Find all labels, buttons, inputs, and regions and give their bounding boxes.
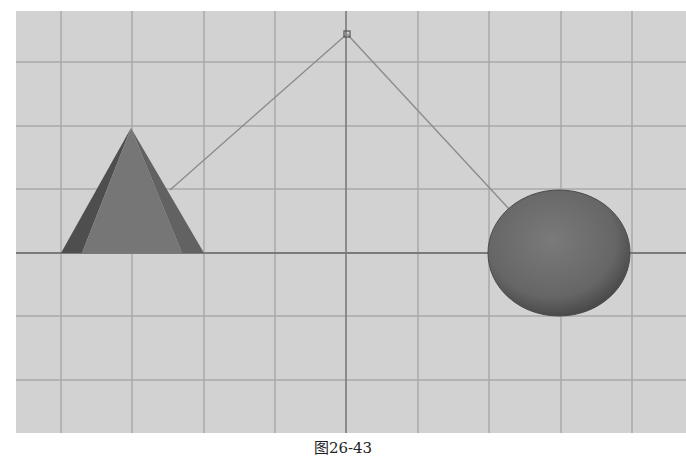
sphere-object[interactable] <box>488 190 630 316</box>
connection-lines <box>170 34 510 210</box>
scene-canvas[interactable] <box>16 11 686 433</box>
figure-caption: 图26-43 <box>0 436 686 457</box>
3d-viewport[interactable] <box>16 11 686 433</box>
cone-object[interactable] <box>61 128 204 253</box>
